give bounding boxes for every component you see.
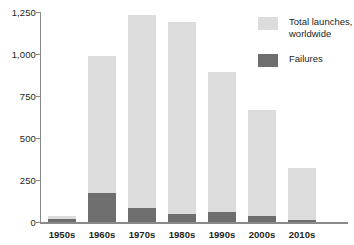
bar-failures-2010s <box>288 220 316 222</box>
bar-group-1990s[interactable] <box>208 72 236 222</box>
x-axis-label-1980s: 1980s <box>162 229 202 240</box>
bar-failures-1990s <box>208 212 236 222</box>
bar-total-1990s <box>208 72 236 222</box>
y-axis-line <box>40 12 41 223</box>
bar-failures-2000s <box>248 216 276 222</box>
bar-group-1950s[interactable] <box>48 216 76 222</box>
y-axis-label-250: 250 <box>0 175 36 186</box>
legend-label-total-launches: Total launches, worldwide <box>289 16 352 39</box>
bar-failures-1980s <box>168 214 196 222</box>
bar-group-1970s[interactable] <box>128 15 156 222</box>
bar-group-1960s[interactable] <box>88 56 116 222</box>
y-axis-label-750: 750 <box>0 91 36 102</box>
y-axis-label-0: 0 <box>0 217 36 228</box>
bar-group-2000s[interactable] <box>248 110 276 222</box>
bar-failures-1950s <box>48 219 76 222</box>
legend-swatch-failures <box>258 54 278 67</box>
x-axis-label-1990s: 1990s <box>202 229 242 240</box>
legend-item-failures[interactable]: Failures <box>258 53 352 65</box>
legend-swatch-total-launches <box>258 17 278 30</box>
chart-legend: Total launches, worldwide Failures <box>258 16 352 74</box>
x-axis-label-1950s: 1950s <box>42 229 82 240</box>
y-tick-500 <box>36 138 41 139</box>
bar-total-2000s <box>248 110 276 222</box>
y-axis-label-500: 500 <box>0 133 36 144</box>
bar-group-1980s[interactable] <box>168 22 196 222</box>
y-tick-1250 <box>36 12 41 13</box>
legend-item-total-launches[interactable]: Total launches, worldwide <box>258 16 352 39</box>
bar-group-2010s[interactable] <box>288 168 316 222</box>
bar-total-1970s <box>128 15 156 222</box>
y-axis-label-1250: 1,250 <box>0 7 36 18</box>
x-axis-label-1960s: 1960s <box>82 229 122 240</box>
bar-failures-1970s <box>128 208 156 222</box>
x-axis-label-1970s: 1970s <box>122 229 162 240</box>
bar-failures-1960s <box>88 193 116 222</box>
bar-chart: 1,250 1,000 750 500 250 0 1950s 1960s 19… <box>0 0 354 245</box>
x-axis-line <box>40 222 348 224</box>
x-axis-label-2000s: 2000s <box>242 229 282 240</box>
bar-total-1980s <box>168 22 196 222</box>
bar-total-2010s <box>288 168 316 222</box>
y-tick-250 <box>36 180 41 181</box>
y-tick-1000 <box>36 54 41 55</box>
legend-label-failures: Failures <box>289 53 352 65</box>
x-axis-label-2010s: 2010s <box>282 229 322 240</box>
y-tick-750 <box>36 96 41 97</box>
y-axis-label-1000: 1,000 <box>0 49 36 60</box>
